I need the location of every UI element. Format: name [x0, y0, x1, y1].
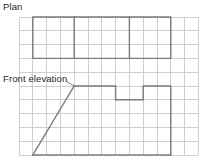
plan-label: Plan — [3, 1, 22, 12]
front-elevation-label: Front elevation — [3, 73, 67, 84]
